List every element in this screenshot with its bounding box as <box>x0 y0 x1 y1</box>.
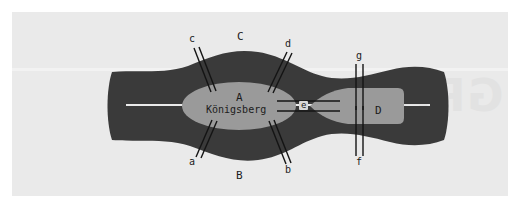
bridge-label-a: a <box>189 157 195 167</box>
bridge-label-c: c <box>189 34 195 44</box>
region-label-c: C <box>237 31 244 42</box>
city-label-konigsberg: Königsberg <box>206 105 266 115</box>
land-right-edge <box>430 72 449 140</box>
region-label-d: D <box>375 105 382 116</box>
region-label-a: A <box>236 92 243 103</box>
bridge-label-e: e <box>299 101 308 110</box>
bridge-label-b: b <box>285 165 291 175</box>
bridge-label-d: d <box>285 39 291 49</box>
bridge-label-f: f <box>356 157 362 167</box>
bridge-label-g: g <box>356 51 362 61</box>
land-left-edge <box>108 72 127 140</box>
figure-root: GRAD <box>0 0 523 209</box>
region-label-b: B <box>236 170 243 181</box>
